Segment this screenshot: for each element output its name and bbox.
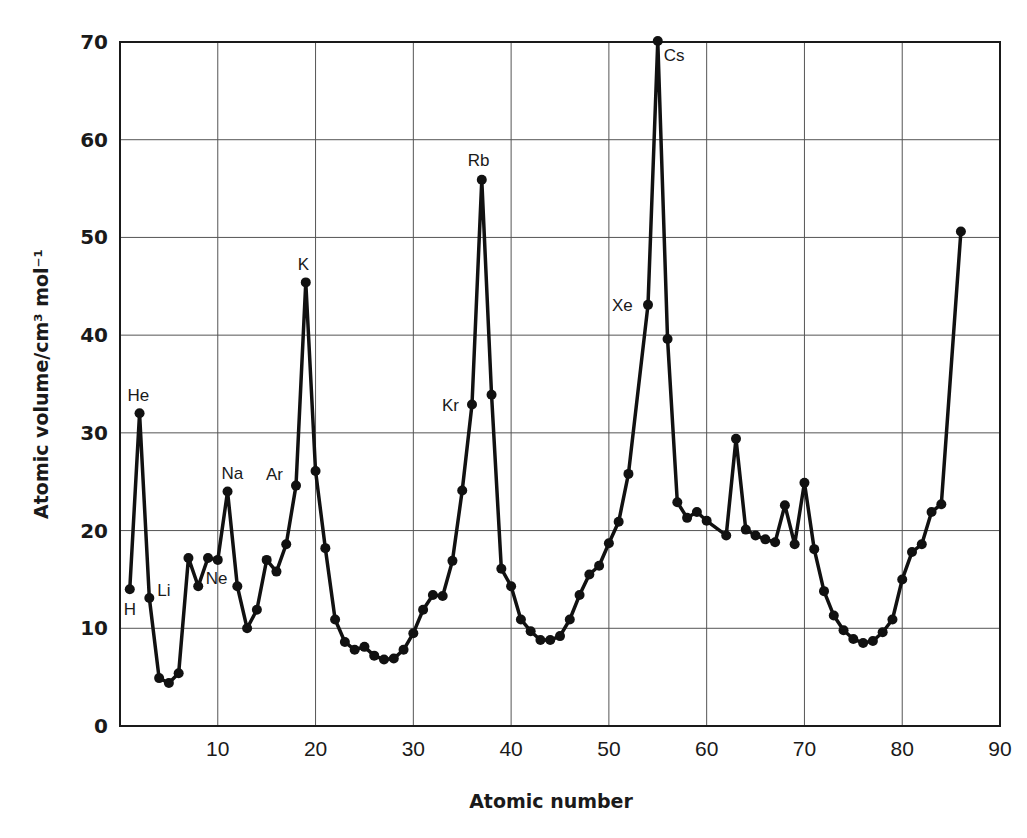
data-point: [320, 543, 330, 553]
data-point: [907, 547, 917, 557]
data-point: [887, 614, 897, 624]
x-tick-label: 70: [793, 737, 816, 760]
element-label: Cs: [664, 46, 685, 65]
data-point: [467, 400, 477, 410]
data-point: [604, 538, 614, 548]
data-point: [428, 590, 438, 600]
data-point: [956, 227, 966, 237]
data-point: [917, 539, 927, 549]
data-point: [584, 570, 594, 580]
data-point: [780, 500, 790, 510]
data-point: [125, 584, 135, 594]
data-point: [858, 638, 868, 648]
data-point: [438, 591, 448, 601]
element-label: Ar: [266, 465, 283, 484]
data-point: [242, 623, 252, 633]
data-point: [174, 668, 184, 678]
data-point: [223, 486, 233, 496]
x-tick-label: 60: [695, 737, 718, 760]
data-point: [936, 499, 946, 509]
plot-frame: [120, 42, 1000, 726]
data-point: [291, 481, 301, 491]
data-point: [526, 626, 536, 636]
data-line: [130, 41, 961, 683]
data-point: [506, 581, 516, 591]
data-point: [741, 525, 751, 535]
atomic-volume-chart: 010203040506070 102030405060708090 HHeLi…: [0, 0, 1027, 838]
data-points: [125, 36, 966, 688]
data-point: [770, 537, 780, 547]
y-tick-label: 40: [80, 323, 108, 347]
element-label: Xe: [612, 296, 633, 315]
data-point: [408, 628, 418, 638]
data-point: [447, 556, 457, 566]
data-point: [829, 611, 839, 621]
data-point: [359, 642, 369, 652]
data-point: [692, 507, 702, 517]
y-tick-label: 20: [80, 519, 108, 543]
x-tick-label: 10: [206, 737, 229, 760]
data-point: [154, 673, 164, 683]
data-point: [535, 635, 545, 645]
y-tick-label: 30: [80, 421, 108, 445]
data-point: [213, 555, 223, 565]
data-point: [203, 553, 213, 563]
x-tick-label: 20: [304, 737, 327, 760]
data-point: [799, 478, 809, 488]
grid-lines: [120, 42, 1000, 726]
data-point: [281, 539, 291, 549]
x-tick-label: 30: [402, 737, 425, 760]
data-point: [672, 497, 682, 507]
data-point: [878, 627, 888, 637]
data-point: [164, 678, 174, 688]
y-axis-ticks: 010203040506070: [80, 30, 108, 738]
data-point: [516, 614, 526, 624]
x-tick-label: 90: [988, 737, 1011, 760]
data-point: [496, 564, 506, 574]
element-label: Na: [222, 464, 244, 483]
data-point: [760, 534, 770, 544]
y-tick-label: 70: [80, 30, 108, 54]
data-point: [565, 614, 575, 624]
data-point: [839, 625, 849, 635]
element-label: Kr: [442, 396, 459, 415]
data-point: [399, 645, 409, 655]
y-tick-label: 50: [80, 225, 108, 249]
data-point: [193, 581, 203, 591]
data-point: [594, 561, 604, 571]
y-axis-label: Atomic volume/cm³ mol⁻¹: [30, 249, 52, 519]
data-point: [623, 469, 633, 479]
data-point: [340, 637, 350, 647]
element-label: Li: [157, 581, 170, 600]
data-point: [643, 300, 653, 310]
data-point: [545, 635, 555, 645]
data-point: [271, 567, 281, 577]
data-point: [379, 655, 389, 665]
data-point: [477, 175, 487, 185]
data-point: [663, 334, 673, 344]
data-point: [682, 513, 692, 523]
y-tick-label: 60: [80, 128, 108, 152]
x-axis-ticks: 102030405060708090: [206, 737, 1012, 760]
element-label: H: [124, 600, 136, 619]
element-label: Rb: [468, 151, 490, 170]
data-point: [819, 586, 829, 596]
data-point: [369, 651, 379, 661]
data-point: [614, 517, 624, 527]
data-point: [135, 408, 145, 418]
data-point: [183, 553, 193, 563]
data-point: [232, 581, 242, 591]
data-point: [790, 539, 800, 549]
data-point: [848, 634, 858, 644]
data-point: [868, 636, 878, 646]
data-point: [330, 614, 340, 624]
data-point: [927, 507, 937, 517]
data-point: [897, 574, 907, 584]
data-point: [350, 645, 360, 655]
y-tick-label: 10: [80, 616, 108, 640]
data-point: [731, 434, 741, 444]
data-point: [555, 631, 565, 641]
element-labels: HHeLiNeNaArKKrRbXeCs: [124, 46, 685, 619]
x-tick-label: 80: [891, 737, 914, 760]
data-point: [144, 593, 154, 603]
